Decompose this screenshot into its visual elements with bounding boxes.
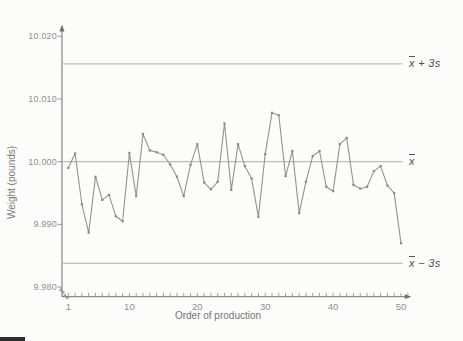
data-point-marker <box>305 181 307 183</box>
data-point-marker <box>135 195 137 197</box>
data-point-marker <box>284 175 286 177</box>
data-point-marker <box>298 212 300 214</box>
data-point-marker <box>291 150 293 152</box>
x-tick-label: 20 <box>184 301 210 312</box>
control-chart-canvas <box>0 0 463 341</box>
data-point-marker <box>223 122 225 124</box>
data-point-marker <box>189 164 191 166</box>
data-point-marker <box>210 188 212 190</box>
data-point-marker <box>400 242 402 244</box>
center-label: x <box>409 154 415 168</box>
data-point-marker <box>155 151 157 153</box>
y-tick-label: 10.000 <box>0 156 57 168</box>
data-point-marker <box>169 163 171 165</box>
data-point-marker <box>88 231 90 233</box>
x-bar-symbol: x <box>409 257 415 269</box>
data-point-marker <box>67 167 69 169</box>
y-tick-label: 9.980 <box>0 281 57 293</box>
data-point-marker <box>278 114 280 116</box>
data-point-marker <box>101 199 103 201</box>
data-point-marker <box>108 194 110 196</box>
x-tick-label: 10 <box>116 301 142 312</box>
x-bar-symbol: x <box>409 57 415 69</box>
data-point-marker <box>122 220 124 222</box>
page-scan-artifact <box>0 337 25 341</box>
data-point-marker <box>386 184 388 186</box>
data-point-marker <box>359 188 361 190</box>
lcl-label: x − 3s <box>409 256 440 270</box>
data-point-marker <box>142 133 144 135</box>
data-point-marker <box>393 192 395 194</box>
data-point-marker <box>237 143 239 145</box>
data-point-marker <box>94 176 96 178</box>
ucl-label: x + 3s <box>409 56 440 70</box>
data-point-marker <box>325 186 327 188</box>
data-polyline <box>68 113 401 243</box>
data-point-marker <box>380 165 382 167</box>
data-point-marker <box>264 153 266 155</box>
data-point-marker <box>244 165 246 167</box>
control-chart-figure: Weight (pounds) Order of production 10.0… <box>0 0 463 341</box>
x-tick-label: 1 <box>55 301 81 312</box>
data-point-marker <box>332 190 334 192</box>
x-tick-label: 30 <box>252 301 278 312</box>
data-point-marker <box>203 181 205 183</box>
data-point-marker <box>230 189 232 191</box>
x-tick-label: 50 <box>388 301 414 312</box>
data-point-marker <box>128 152 130 154</box>
x-bar-symbol: x <box>409 155 415 167</box>
data-point-marker <box>183 195 185 197</box>
data-point-marker <box>257 216 259 218</box>
data-point-marker <box>176 176 178 178</box>
data-point-marker <box>346 137 348 139</box>
y-tick-label: 10.010 <box>0 93 57 105</box>
data-point-marker <box>271 112 273 114</box>
data-point-marker <box>196 143 198 145</box>
data-point-marker <box>373 170 375 172</box>
data-point-marker <box>74 152 76 154</box>
data-point-marker <box>81 203 83 205</box>
data-point-marker <box>312 155 314 157</box>
data-point-marker <box>149 149 151 151</box>
data-point-marker <box>339 143 341 145</box>
y-tick-label: 10.020 <box>0 30 57 42</box>
data-point-marker <box>115 215 117 217</box>
y-axis-arrowhead <box>60 25 65 32</box>
data-point-marker <box>352 184 354 186</box>
data-point-marker <box>366 186 368 188</box>
data-point-marker <box>217 181 219 183</box>
data-point-marker <box>251 178 253 180</box>
data-point-marker <box>318 150 320 152</box>
x-tick-label: 40 <box>320 301 346 312</box>
y-tick-label: 9.990 <box>0 218 57 230</box>
data-point-marker <box>162 154 164 156</box>
